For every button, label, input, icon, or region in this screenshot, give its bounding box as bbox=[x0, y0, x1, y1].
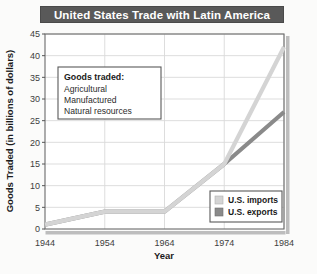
x-tick-label: 1944 bbox=[35, 238, 55, 248]
y-tick-label: 35 bbox=[30, 73, 40, 83]
y-tick-label: 10 bbox=[30, 181, 40, 191]
legend-label-imports: U.S. imports bbox=[228, 195, 278, 205]
y-tick-label: 5 bbox=[35, 203, 40, 213]
x-tick-label: 1974 bbox=[214, 238, 234, 248]
y-tick-label: 30 bbox=[30, 94, 40, 104]
y-tick-label: 15 bbox=[30, 159, 40, 169]
annotation-box: Goods traded: Agricultural Manufactured … bbox=[58, 67, 161, 119]
x-tick-label: 1984 bbox=[274, 238, 294, 248]
y-axis-title: Goods Traded (in billions of dollars) bbox=[4, 50, 15, 213]
x-axis-title: Year bbox=[154, 250, 174, 261]
y-axis-tick-labels: 051015202530354045 bbox=[30, 29, 45, 234]
y-tick-label: 0 bbox=[35, 224, 40, 234]
x-tick-label: 1964 bbox=[154, 238, 174, 248]
annotation-item-2: Natural resources bbox=[64, 106, 132, 116]
annotation-item-0: Agricultural bbox=[64, 84, 107, 94]
annotation-heading: Goods traded: bbox=[64, 72, 124, 82]
trade-line-chart: 051015202530354045 19441954196419741984 … bbox=[0, 0, 317, 274]
annotation-item-1: Manufactured bbox=[64, 95, 117, 105]
legend-swatch-imports bbox=[215, 196, 223, 204]
y-tick-label: 25 bbox=[30, 116, 40, 126]
y-tick-label: 40 bbox=[30, 51, 40, 61]
y-tick-label: 20 bbox=[30, 138, 40, 148]
legend: U.S. imports U.S. exports bbox=[210, 191, 282, 222]
x-tick-label: 1954 bbox=[95, 238, 115, 248]
y-tick-label: 45 bbox=[30, 29, 40, 39]
chart-figure: United States Trade with Latin America 0… bbox=[0, 0, 317, 274]
legend-label-exports: U.S. exports bbox=[228, 207, 278, 217]
legend-swatch-exports bbox=[215, 208, 223, 216]
x-axis-tick-labels: 19441954196419741984 bbox=[35, 238, 294, 248]
